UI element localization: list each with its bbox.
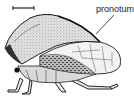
pronotum-leader-line bbox=[96, 15, 114, 34]
scale-bar bbox=[13, 6, 34, 10]
pronotum-label: pronotum bbox=[96, 5, 134, 14]
eye bbox=[14, 67, 19, 72]
treehopper-illustration bbox=[0, 0, 134, 107]
